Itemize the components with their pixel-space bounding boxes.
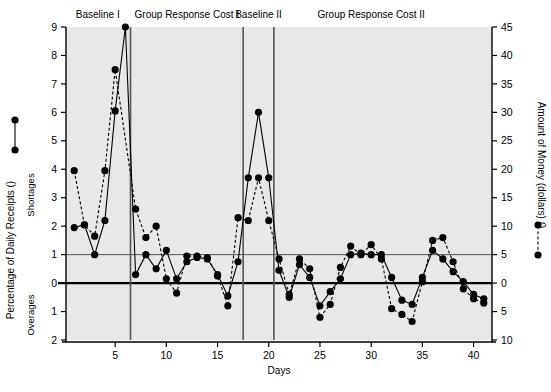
data-point bbox=[132, 206, 139, 213]
data-point bbox=[132, 271, 139, 278]
left-tick-label-0: 9 bbox=[51, 21, 57, 33]
phase-label-3: Baseline II bbox=[235, 9, 282, 20]
data-point bbox=[275, 255, 282, 262]
data-point bbox=[388, 305, 395, 312]
data-point bbox=[347, 251, 354, 258]
data-point bbox=[429, 237, 436, 244]
left-tick-label-10: 1 bbox=[51, 305, 57, 317]
data-point bbox=[112, 66, 119, 73]
right-tick-label-4: 25 bbox=[501, 134, 513, 146]
data-point bbox=[224, 302, 231, 309]
right-tick-label-2: 35 bbox=[501, 78, 513, 90]
data-point bbox=[306, 265, 313, 272]
right-legend-symbol bbox=[534, 221, 541, 258]
data-point bbox=[398, 311, 405, 318]
data-point bbox=[449, 258, 456, 265]
data-point bbox=[255, 109, 262, 116]
legend-marker bbox=[11, 146, 18, 153]
right-tick-label-9: 0 bbox=[501, 277, 507, 289]
data-point bbox=[439, 255, 446, 262]
data-point bbox=[101, 217, 108, 224]
chart-svg: Baseline IGroup Response Cost IBaseline … bbox=[0, 0, 551, 392]
left-tick-label-11: 2 bbox=[51, 334, 57, 346]
data-point bbox=[368, 241, 375, 248]
data-point bbox=[101, 167, 108, 174]
chart-container: Baseline IGroup Response Cost IBaseline … bbox=[0, 0, 551, 392]
data-point bbox=[409, 301, 416, 308]
data-point bbox=[316, 314, 323, 321]
right-tick-label-10: 5 bbox=[501, 305, 507, 317]
data-point bbox=[470, 295, 477, 302]
x-tick-label-1: 10 bbox=[161, 349, 173, 361]
data-point bbox=[460, 285, 467, 292]
right-tick-label-5: 20 bbox=[501, 163, 513, 175]
phase-label-4: Group Response Cost II bbox=[318, 9, 425, 20]
data-point bbox=[71, 167, 78, 174]
data-point bbox=[265, 174, 272, 181]
data-point bbox=[153, 265, 160, 272]
data-point bbox=[173, 289, 180, 296]
data-point bbox=[193, 252, 200, 259]
data-point bbox=[234, 214, 241, 221]
right-tick-label-1: 40 bbox=[501, 49, 513, 61]
data-point bbox=[183, 252, 190, 259]
legend-marker bbox=[534, 251, 541, 258]
data-point bbox=[378, 255, 385, 262]
data-point bbox=[265, 217, 272, 224]
legend-marker bbox=[11, 116, 18, 123]
data-point bbox=[91, 233, 98, 240]
left-axis-title: Percentage of Daily Receipts () bbox=[5, 181, 16, 319]
data-point bbox=[337, 275, 344, 282]
data-point bbox=[255, 174, 262, 181]
phase-label-2: Group Response Cost I bbox=[135, 9, 240, 20]
left-subtitle-overages: Overages bbox=[25, 294, 36, 335]
x-tick-label-7: 40 bbox=[468, 349, 480, 361]
right-tick-label-7: 10 bbox=[501, 220, 513, 232]
data-point bbox=[296, 255, 303, 262]
data-point bbox=[286, 291, 293, 298]
x-axis-title: Days bbox=[268, 365, 291, 376]
data-point bbox=[419, 278, 426, 285]
data-point bbox=[234, 258, 241, 265]
data-point bbox=[173, 275, 180, 282]
data-point bbox=[347, 243, 354, 250]
data-point bbox=[81, 221, 88, 228]
data-point bbox=[337, 264, 344, 271]
left-tick-label-2: 7 bbox=[51, 78, 57, 90]
data-point bbox=[327, 301, 334, 308]
right-tick-label-8: 5 bbox=[501, 248, 507, 260]
data-point bbox=[204, 254, 211, 261]
data-point bbox=[449, 268, 456, 275]
data-point bbox=[306, 274, 313, 281]
data-point bbox=[91, 251, 98, 258]
data-point bbox=[480, 299, 487, 306]
right-tick-label-11: 10 bbox=[501, 334, 513, 346]
left-tick-label-4: 5 bbox=[51, 134, 57, 146]
right-tick-label-6: 15 bbox=[501, 191, 513, 203]
data-point bbox=[398, 297, 405, 304]
data-point bbox=[409, 318, 416, 325]
data-point bbox=[112, 107, 119, 114]
data-point bbox=[245, 217, 252, 224]
left-subtitle-shortages: Shortages bbox=[25, 173, 36, 217]
data-point bbox=[142, 251, 149, 258]
data-point bbox=[153, 223, 160, 230]
legend-marker bbox=[534, 221, 541, 228]
left-tick-label-7: 2 bbox=[51, 220, 57, 232]
left-tick-label-9: 0 bbox=[51, 277, 57, 289]
x-tick-label-5: 30 bbox=[365, 349, 377, 361]
data-point bbox=[245, 174, 252, 181]
x-tick-label-2: 15 bbox=[212, 349, 224, 361]
left-tick-label-3: 6 bbox=[51, 106, 57, 118]
right-axis-title: Amount of Money (dollars) () bbox=[536, 102, 547, 229]
data-point bbox=[122, 23, 129, 30]
data-point bbox=[214, 272, 221, 279]
left-tick-label-8: 1 bbox=[51, 248, 57, 260]
phase-label-1: Baseline I bbox=[76, 9, 120, 20]
left-tick-label-1: 8 bbox=[51, 49, 57, 61]
data-point bbox=[357, 251, 364, 258]
left-tick-label-5: 4 bbox=[51, 163, 57, 175]
x-tick-label-6: 35 bbox=[417, 349, 429, 361]
x-tick-label-3: 20 bbox=[263, 349, 275, 361]
right-tick-label-3: 30 bbox=[501, 106, 513, 118]
